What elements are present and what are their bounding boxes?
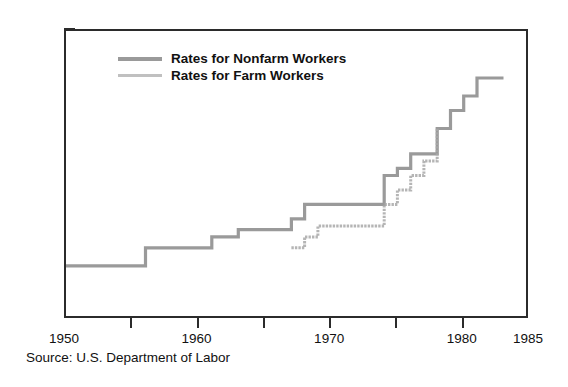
x-tick-mark xyxy=(263,318,265,328)
x-tick-label: 1950 xyxy=(49,331,79,346)
legend: Rates for Nonfarm WorkersRates for Farm … xyxy=(118,50,346,84)
legend-item-nonfarm: Rates for Nonfarm Workers xyxy=(118,50,346,67)
x-tick-label: 1970 xyxy=(314,331,344,346)
legend-item-farm: Rates for Farm Workers xyxy=(118,67,346,84)
x-tick-label: 1980 xyxy=(447,331,477,346)
legend-swatch-nonfarm xyxy=(118,57,162,61)
legend-label-farm: Rates for Farm Workers xyxy=(171,68,324,83)
legend-label-nonfarm: Rates for Nonfarm Workers xyxy=(171,51,346,66)
legend-swatch-farm xyxy=(118,74,162,77)
series-line-farm xyxy=(291,129,437,248)
x-tick-mark xyxy=(130,318,132,328)
x-tick-mark xyxy=(197,318,199,328)
x-tick-mark xyxy=(462,318,464,328)
x-tick-label: 1960 xyxy=(182,331,212,346)
x-tick-mark xyxy=(395,318,397,328)
x-tick-label: 1985 xyxy=(513,331,543,346)
source-note: Source: U.S. Department of Labor xyxy=(26,350,230,365)
minimum-wage-step-chart: 0$1.00$2.00$3.00$4.00 195019601970198019… xyxy=(0,0,568,387)
series-line-nonfarm xyxy=(66,78,504,266)
x-tick-mark xyxy=(329,318,331,328)
